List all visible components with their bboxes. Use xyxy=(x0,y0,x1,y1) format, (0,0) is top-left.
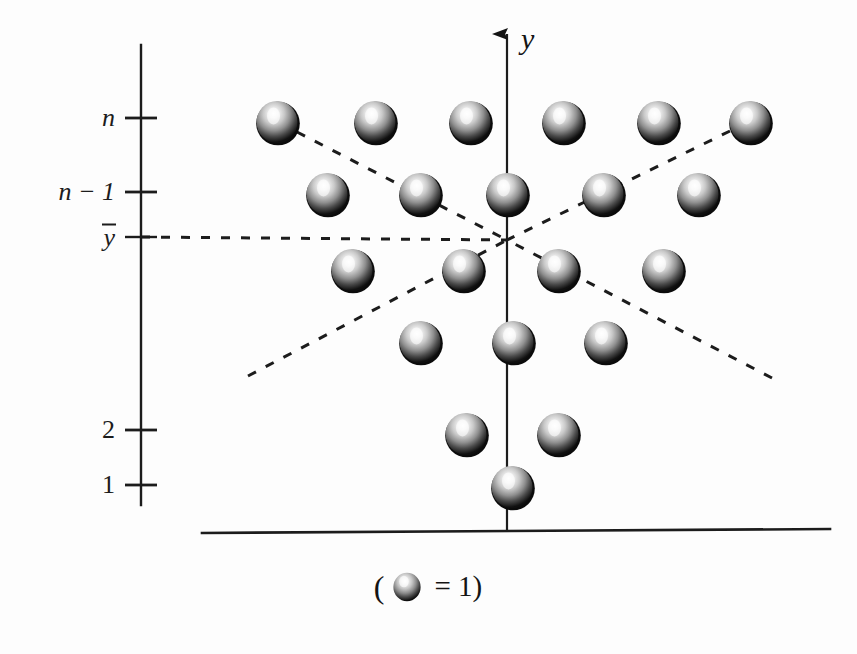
figure-canvas: nn − 1y21 y ( = 1) xyxy=(0,0,857,654)
sphere-highlight xyxy=(653,256,666,273)
sphere-icon xyxy=(445,413,489,457)
sphere-icon xyxy=(637,101,681,145)
sphere-icon xyxy=(354,101,398,145)
sphere-highlight xyxy=(553,108,566,125)
tick-label-5: 1 xyxy=(102,470,115,500)
sphere-icon xyxy=(582,173,626,217)
sphere-icon xyxy=(491,466,535,510)
diagram-vector-layer xyxy=(0,0,857,654)
sphere-highlight xyxy=(410,180,423,197)
caption-open-paren: ( xyxy=(374,571,385,603)
sphere-highlight xyxy=(593,180,606,197)
sphere-icon xyxy=(449,101,493,145)
y-bar-symbol: y xyxy=(103,222,115,253)
sphere-highlight xyxy=(548,256,561,273)
sphere-icon xyxy=(542,101,586,145)
sphere-highlight xyxy=(648,108,661,125)
sphere-icon xyxy=(306,173,350,217)
sphere-highlight xyxy=(456,420,469,437)
sphere-icon xyxy=(256,101,300,145)
tick-label-2: n − 1 xyxy=(58,177,115,207)
y-axis-label: y xyxy=(521,22,534,56)
sphere-icon xyxy=(642,249,686,293)
sphere-icon xyxy=(399,321,443,365)
sphere-highlight xyxy=(342,256,355,273)
tick-label-1: n xyxy=(102,103,115,133)
sphere-icon xyxy=(399,173,443,217)
sphere-highlight xyxy=(267,108,280,125)
sphere-icon xyxy=(677,173,721,217)
dashed-ray-mean-horizontal xyxy=(141,237,507,240)
sphere-icon xyxy=(537,249,581,293)
sphere-highlight xyxy=(497,180,510,197)
tick-label-4: 2 xyxy=(102,415,115,445)
sphere-grid xyxy=(256,101,773,510)
tick-label-3: y xyxy=(103,222,115,253)
sphere-highlight xyxy=(548,420,561,437)
sphere-highlight xyxy=(595,328,608,345)
sphere-highlight xyxy=(503,328,516,345)
legend-caption: ( = 1) xyxy=(0,570,857,603)
sphere-icon xyxy=(729,101,773,145)
sphere-highlight xyxy=(317,180,330,197)
sphere-highlight xyxy=(688,180,701,197)
sphere-icon xyxy=(392,572,422,602)
x-axis-line xyxy=(202,529,830,533)
sphere-icon xyxy=(537,413,581,457)
sphere-icon xyxy=(492,321,536,365)
sphere-icon xyxy=(584,321,628,365)
sphere-highlight xyxy=(365,108,378,125)
sphere-highlight xyxy=(410,328,423,345)
sphere-highlight xyxy=(740,108,753,125)
caption-equals-one: = 1) xyxy=(430,570,483,603)
sphere-icon xyxy=(331,249,375,293)
sphere-highlight xyxy=(502,473,515,490)
sphere-icon xyxy=(486,173,530,217)
sphere-highlight xyxy=(453,256,466,273)
sphere-highlight xyxy=(460,108,473,125)
